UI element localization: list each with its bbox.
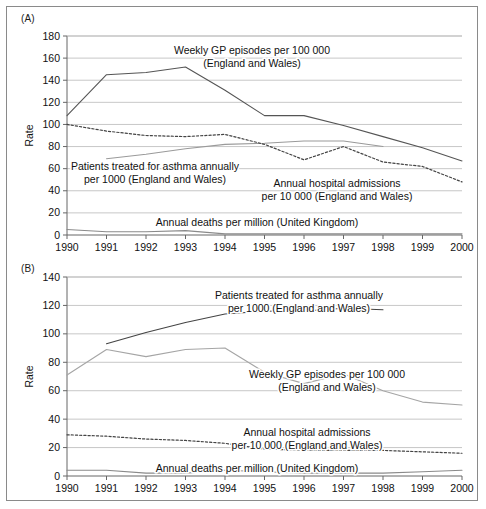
panel-a-plot: 0204060801001201401601801990199119921993… — [7, 7, 477, 259]
series-line — [67, 229, 462, 233]
y-tick-label: 60 — [48, 162, 60, 174]
y-tick-label: 40 — [48, 413, 60, 425]
x-tick-label: 1999 — [411, 482, 435, 494]
y-tick-label: 100 — [42, 327, 60, 339]
x-tick-label: 1998 — [371, 241, 395, 253]
y-tick-label: 40 — [48, 184, 60, 196]
chart-panel-a: (A) 020406080100120140160180199019911992… — [7, 7, 477, 259]
annotation-gp-episodes: Weekly GP episodes per 100 000 — [249, 368, 405, 380]
annotation-annual-deaths: Annual deaths per million (United Kingdo… — [156, 462, 359, 474]
x-tick-label: 1991 — [95, 241, 119, 253]
y-tick-label: 100 — [42, 118, 60, 130]
annotation-gp-episodes: (England and Wales) — [278, 381, 376, 393]
annotation-hospital-admissions: per 10 000 (England and Wales) — [262, 190, 413, 202]
x-tick-label: 1995 — [253, 241, 277, 253]
x-tick-label: 1993 — [174, 482, 198, 494]
annotation-patients-treated: per 1000 (England and Wales) — [228, 302, 370, 314]
y-tick-label: 20 — [48, 206, 60, 218]
annotation-hospital-admissions: Annual hospital admissions — [273, 177, 400, 189]
y-axis-title: Rate — [23, 124, 35, 146]
y-tick-label: 120 — [42, 299, 60, 311]
annotation-gp-episodes: Weekly GP episodes per 100 000 — [174, 44, 330, 56]
figure-frame: (A) 020406080100120140160180199019911992… — [6, 6, 478, 501]
x-tick-label: 1999 — [411, 241, 435, 253]
x-tick-label: 1994 — [213, 482, 237, 494]
y-tick-label: 120 — [42, 96, 60, 108]
x-tick-label: 1991 — [95, 482, 119, 494]
y-tick-label: 80 — [48, 356, 60, 368]
x-tick-label: 1994 — [213, 241, 237, 253]
y-tick-label: 0 — [54, 229, 60, 241]
series-line — [107, 141, 384, 159]
y-tick-label: 160 — [42, 52, 60, 64]
x-tick-label: 1997 — [332, 241, 356, 253]
y-tick-label: 80 — [48, 140, 60, 152]
y-tick-label: 180 — [42, 30, 60, 42]
annotation-patients-treated: Patients treated for asthma annually — [215, 289, 384, 301]
annotation-annual-deaths: Annual deaths per million (United Kingdo… — [156, 216, 359, 228]
x-tick-label: 1996 — [292, 241, 316, 253]
x-tick-label: 2000 — [450, 482, 474, 494]
annotation-patients-treated: Patients treated for asthma annually — [71, 160, 240, 172]
x-tick-label: 2000 — [450, 241, 474, 253]
x-tick-label: 1990 — [55, 482, 79, 494]
y-tick-label: 0 — [54, 470, 60, 482]
panel-b-plot: 0204060801001201401990199119921993199419… — [7, 259, 477, 500]
x-tick-label: 1993 — [174, 241, 198, 253]
y-tick-label: 140 — [42, 271, 60, 283]
chart-panel-b: (B) 020406080100120140199019911992199319… — [7, 259, 477, 500]
x-tick-label: 1995 — [253, 482, 277, 494]
y-axis-title: Rate — [23, 365, 35, 387]
y-tick-label: 60 — [48, 384, 60, 396]
x-tick-label: 1992 — [134, 241, 158, 253]
x-tick-label: 1996 — [292, 482, 316, 494]
x-tick-label: 1990 — [55, 241, 79, 253]
annotation-hospital-admissions: per 10 000 (England and Wales) — [232, 439, 383, 451]
x-tick-label: 1997 — [332, 482, 356, 494]
x-tick-label: 1992 — [134, 482, 158, 494]
y-tick-label: 140 — [42, 74, 60, 86]
x-tick-label: 1998 — [371, 482, 395, 494]
annotation-gp-episodes: (England and Wales) — [203, 57, 301, 69]
annotation-hospital-admissions: Annual hospital admissions — [243, 426, 370, 438]
y-tick-label: 20 — [48, 441, 60, 453]
annotation-patients-treated: per 1000 (England and Wales) — [84, 173, 226, 185]
